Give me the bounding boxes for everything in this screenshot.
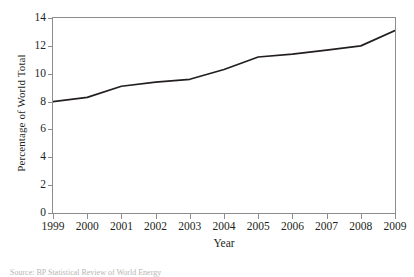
x-tick-mark: [292, 214, 293, 219]
x-tick-mark: [53, 214, 54, 219]
x-tick-mark: [361, 214, 362, 219]
y-tick-label: 14: [26, 12, 46, 24]
x-tick-mark: [327, 214, 328, 219]
x-axis-tick-labels: 1999200020012002200320042005200620072008…: [52, 219, 396, 235]
x-tick-label: 2001: [110, 219, 133, 233]
x-tick-mark: [121, 214, 122, 219]
x-axis-label: Year: [52, 237, 396, 250]
x-tick-mark: [156, 214, 157, 219]
x-tick-label: 2002: [144, 219, 167, 233]
source-note: Source: BP Statistical Review of World E…: [10, 268, 414, 277]
y-tick-label: 8: [26, 96, 46, 108]
y-tick-label: 6: [26, 123, 46, 135]
x-tick-label: 2000: [76, 219, 99, 233]
x-tick-mark: [190, 214, 191, 219]
data-line-svg: [53, 18, 395, 213]
x-tick-label: 2005: [247, 219, 270, 233]
plot-area: [52, 17, 396, 214]
y-tick-label: 4: [26, 151, 46, 163]
y-tick-label: 10: [26, 68, 46, 80]
x-tick-label: 2006: [281, 219, 304, 233]
x-tick-mark: [395, 214, 396, 219]
x-tick-label: 1999: [42, 219, 65, 233]
x-tick-label: 2007: [315, 219, 338, 233]
y-tick-label: 12: [26, 40, 46, 52]
x-tick-mark: [224, 214, 225, 219]
x-tick-mark: [87, 214, 88, 219]
y-tick-label: 0: [26, 207, 46, 219]
y-tick-label: 2: [26, 179, 46, 191]
x-tick-label: 2004: [213, 219, 236, 233]
x-tick-label: 2008: [349, 219, 372, 233]
x-tick-mark: [258, 214, 259, 219]
y-axis-tick-labels: 02468101214: [26, 0, 46, 276]
x-tick-label: 2003: [178, 219, 201, 233]
data-series-line: [53, 31, 395, 102]
x-tick-label: 2009: [384, 219, 407, 233]
